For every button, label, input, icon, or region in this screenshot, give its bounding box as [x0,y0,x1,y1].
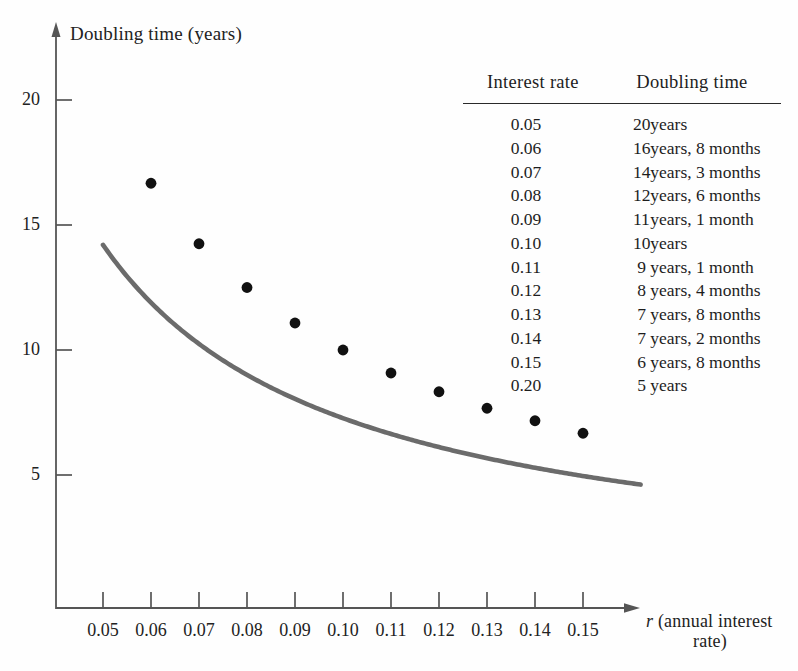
column-header-interest-rate: Interest rate [463,72,603,100]
cell-interest-rate: 0.14 [463,326,603,350]
x-axis-title-line1: (annual interest [658,611,773,631]
cell-interest-rate: 0.13 [463,303,603,327]
cell-interest-rate: 0.06 [463,136,603,160]
cell-doubling-time: 8 years, 4 months [603,279,781,303]
table-row: 0.0520 years [463,104,781,137]
x-axis-arrowhead [624,603,640,613]
cell-doubling-time: 9 years, 1 month [603,255,781,279]
cell-interest-rate: 0.09 [463,208,603,232]
doubling-time-units: years [646,114,687,134]
doubling-time-units: years, 1 month [646,257,754,277]
doubling-time-number: 5 [633,374,646,397]
x-axis-title: r (annual interest rate) [646,611,796,651]
cell-doubling-time: 11 years, 1 month [603,208,781,232]
table-row: 0.1010 years [463,231,781,255]
doubling-time-number: 20 [633,113,646,136]
doubling-time-units: years, 8 months [646,304,761,324]
doubling-time-number: 11 [633,208,646,231]
cell-doubling-time: 7 years, 2 months [603,326,781,350]
y-tick-label-5: 5 [6,464,40,485]
cell-interest-rate: 0.20 [463,374,603,398]
data-point-marker [290,318,301,329]
table-row: 0.119 years, 1 month [463,255,781,279]
cell-doubling-time: 10 years [603,231,781,255]
data-point-marker [242,282,253,293]
doubling-time-number: 16 [633,137,646,160]
table-row: 0.205 years [463,374,781,398]
doubling-time-table: Interest rate Doubling time 0.0520 years… [463,72,781,398]
table: Interest rate Doubling time 0.0520 years… [463,72,781,398]
doubling-time-number: 6 [633,351,646,374]
cell-interest-rate: 0.07 [463,160,603,184]
x-axis-variable: r [646,611,653,631]
table-row: 0.137 years, 8 months [463,303,781,327]
table-row: 0.0911 years, 1 month [463,208,781,232]
table-row: 0.0812 years, 6 months [463,184,781,208]
data-point-marker [338,345,349,356]
table-head: Interest rate Doubling time [463,72,781,104]
cell-doubling-time: 12 years, 6 months [603,184,781,208]
doubling-time-number: 9 [633,256,646,279]
doubling-time-units: years, 8 months [646,138,761,158]
y-tick-label-20: 20 [6,89,40,110]
cell-interest-rate: 0.05 [463,104,603,137]
y-tick-marks [56,100,72,475]
doubling-time-number: 8 [633,279,646,302]
doubling-time-units: years [646,233,687,253]
cell-interest-rate: 0.10 [463,231,603,255]
doubling-time-number: 10 [633,232,646,255]
doubling-time-units: years, 6 months [646,185,761,205]
figure-page: Doubling time (years) r (annual interest… [0,0,798,671]
cell-doubling-time: 14 years, 3 months [603,160,781,184]
doubling-time-number: 14 [633,161,646,184]
cell-interest-rate: 0.08 [463,184,603,208]
doubling-time-units: years, 2 months [646,328,761,348]
y-axis-arrowhead [52,22,61,37]
table-body: 0.0520 years0.0616 years, 8 months0.0714… [463,104,781,398]
cell-interest-rate: 0.15 [463,350,603,374]
table-row: 0.0714 years, 3 months [463,160,781,184]
cell-doubling-time: 16 years, 8 months [603,136,781,160]
data-point-marker [530,415,541,426]
data-point-marker [434,386,445,397]
data-point-marker [482,403,493,414]
y-tick-label-10: 10 [6,339,40,360]
table-row: 0.0616 years, 8 months [463,136,781,160]
cell-doubling-time: 5 years [603,374,781,398]
x-tick-marks [103,592,583,608]
table-header-row: Interest rate Doubling time [463,72,781,100]
doubling-time-units: years, 3 months [646,162,761,182]
data-point-marker [578,428,589,439]
data-point-marker [146,178,157,189]
doubling-time-units: years, 1 month [646,209,754,229]
cell-interest-rate: 0.11 [463,255,603,279]
doubling-time-units: years, 4 months [646,280,761,300]
doubling-time-number: 7 [633,303,646,326]
doubling-time-number: 12 [633,184,646,207]
x-tick-label-10: 0.15 [553,620,613,641]
data-point-marker [194,238,205,249]
y-tick-label-15: 15 [6,214,40,235]
y-axis-title: Doubling time (years) [70,23,242,45]
doubling-time-number: 7 [633,327,646,350]
cell-doubling-time: 7 years, 8 months [603,303,781,327]
cell-doubling-time: 6 years, 8 months [603,350,781,374]
data-point-marker [386,368,397,379]
table-row: 0.147 years, 2 months [463,326,781,350]
column-header-doubling-time: Doubling time [603,72,781,100]
doubling-time-units: years [646,375,687,395]
x-axis-title-line2: rate) [646,631,774,651]
cell-interest-rate: 0.12 [463,279,603,303]
table-row: 0.128 years, 4 months [463,279,781,303]
table-row: 0.156 years, 8 months [463,350,781,374]
doubling-time-units: years, 8 months [646,352,761,372]
cell-doubling-time: 20 years [603,104,781,137]
